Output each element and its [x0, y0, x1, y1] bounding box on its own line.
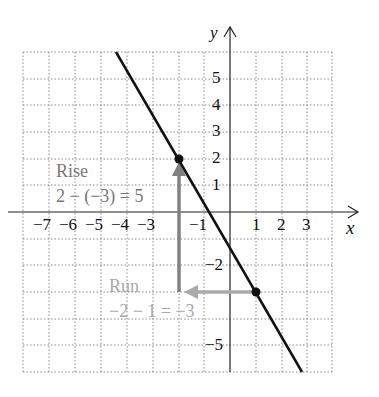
y-tick-neg2: −2	[205, 256, 223, 273]
x-axis-label: x	[346, 218, 354, 237]
x-tick-neg3: −3	[137, 216, 155, 233]
y-tick-2: 2	[212, 149, 221, 166]
rise-arrow	[172, 162, 186, 292]
rise-expression: 2 − (−3) = 5	[56, 187, 143, 205]
x-tick-1: 1	[252, 216, 261, 233]
point-a	[175, 155, 184, 164]
x-tick-neg6: −6	[59, 216, 77, 233]
y-tick-5: 5	[212, 69, 221, 86]
y-tick-neg5: −5	[205, 336, 223, 353]
x-tick-3: 3	[302, 216, 311, 233]
x-tick-2: 2	[277, 216, 286, 233]
rise-title: Rise	[56, 162, 88, 180]
y-tick-4: 4	[212, 96, 221, 113]
x-tick-neg7: −7	[33, 216, 51, 233]
y-tick-3: 3	[212, 122, 221, 139]
run-expression: −2 − 1 = −3	[109, 302, 195, 320]
point-b	[252, 288, 261, 297]
y-tick-1: 1	[212, 176, 221, 193]
x-tick-neg5: −5	[85, 216, 103, 233]
x-tick-neg4: −4	[111, 216, 129, 233]
run-arrow	[184, 285, 256, 299]
run-title: Run	[109, 277, 139, 295]
y-axis-label: y	[210, 24, 218, 41]
x-tick-neg1: −1	[189, 216, 207, 233]
